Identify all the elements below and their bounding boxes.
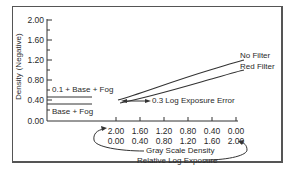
svg-text:0.40: 0.40 — [132, 136, 149, 146]
no-filter-curve — [118, 60, 244, 100]
series-label-red-filter: Red Filter — [240, 62, 275, 71]
svg-text:1.60: 1.60 — [204, 136, 221, 146]
svg-text:0.00: 0.00 — [228, 126, 245, 136]
arrowhead-gray-scale-icon — [101, 126, 107, 131]
svg-text:2.00: 2.00 — [108, 126, 125, 136]
svg-text:1.20: 1.20 — [27, 55, 44, 65]
relative-log-exposure-label: Relative Log Exposure — [137, 156, 218, 165]
characteristic-curve-chart: 2.00 1.60 1.20 0.80 0.40 0.00 Density(Ne… — [0, 0, 293, 180]
annotation-error: 0.3 Log Exposure Error — [152, 96, 235, 105]
svg-text:0.40: 0.40 — [27, 95, 44, 105]
svg-text:1.20: 1.20 — [156, 126, 173, 136]
ref-label-lower: Base + Fog — [52, 107, 93, 116]
x-tick-labels-gray-scale: 2.00 1.60 1.20 0.80 0.40 0.00 — [108, 126, 245, 136]
y-tick-labels: 2.00 1.60 1.20 0.80 0.40 0.00 — [27, 15, 44, 126]
gray-scale-density-label: Gray Scale Density — [146, 146, 214, 155]
ref-label-upper: 0.1 + Base + Fog — [52, 85, 113, 94]
svg-text:1.20: 1.20 — [180, 136, 197, 146]
svg-text:0.80: 0.80 — [27, 75, 44, 85]
svg-text:0.40: 0.40 — [204, 126, 221, 136]
arrowhead-right-icon — [145, 99, 151, 103]
x-tick-labels-log-exposure: 0.00 0.40 0.80 1.20 1.60 2.00 — [108, 136, 245, 146]
x-ticks — [116, 117, 236, 121]
svg-text:1.60: 1.60 — [27, 35, 44, 45]
svg-text:0.00: 0.00 — [27, 116, 44, 126]
series-label-no-filter: No Filter — [240, 51, 271, 60]
y-axis-label: Density(Negative) — [14, 33, 23, 100]
svg-text:1.60: 1.60 — [132, 126, 149, 136]
svg-text:0.80: 0.80 — [180, 126, 197, 136]
svg-text:0.80: 0.80 — [156, 136, 173, 146]
svg-text:2.00: 2.00 — [27, 15, 44, 25]
svg-text:0.00: 0.00 — [108, 136, 125, 146]
